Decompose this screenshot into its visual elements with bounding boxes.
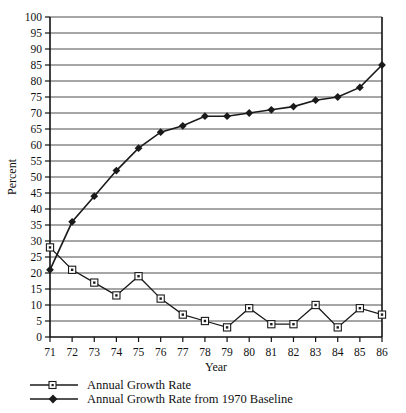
- x-tick-label: 71: [44, 346, 56, 358]
- legend: Annual Growth Rate Annual Growth Rate fr…: [30, 378, 293, 406]
- data-point-marker: [290, 103, 298, 111]
- y-tick-label: 40: [31, 203, 43, 215]
- x-tick-label: 72: [66, 346, 78, 358]
- chart-container: 0510152025303540455055606570758085909510…: [0, 0, 406, 413]
- data-point-center: [226, 326, 228, 328]
- y-tick-label: 0: [36, 331, 42, 343]
- line-chart: 0510152025303540455055606570758085909510…: [0, 0, 406, 413]
- data-point-center: [292, 323, 294, 325]
- data-point-center: [93, 281, 95, 283]
- y-tick-label: 30: [31, 235, 43, 247]
- y-tick-label: 90: [31, 43, 43, 55]
- series-1-line: [50, 65, 382, 270]
- data-point-center: [137, 275, 139, 277]
- data-point-center: [159, 297, 161, 299]
- series-1-markers: [46, 61, 386, 274]
- x-tick-label: 78: [199, 346, 211, 358]
- data-point-marker: [334, 93, 342, 101]
- y-tick-label: 35: [31, 219, 43, 231]
- x-axis-tick-labels: 71727374757677787980818283848586: [44, 346, 388, 358]
- x-tick-label: 80: [243, 346, 255, 358]
- y-tick-label: 5: [36, 315, 42, 327]
- y-tick-label: 45: [31, 187, 43, 199]
- x-tick-label: 77: [177, 346, 189, 358]
- legend-label-1: Annual Growth Rate from 1970 Baseline: [87, 392, 293, 406]
- data-point-center: [204, 320, 206, 322]
- x-tick-label: 79: [221, 346, 233, 358]
- series-0-line: [50, 247, 382, 327]
- y-tick-label: 15: [31, 283, 43, 295]
- x-tick-label: 76: [155, 346, 167, 358]
- y-tick-label: 50: [31, 171, 43, 183]
- filled-diamond-icon: [49, 395, 58, 404]
- data-point-center: [115, 294, 117, 296]
- data-point-marker: [245, 109, 253, 117]
- data-point-center: [49, 246, 51, 248]
- x-axis-title: Year: [205, 360, 227, 374]
- data-point-center: [337, 326, 339, 328]
- data-point-center: [314, 304, 316, 306]
- y-tick-label: 75: [31, 91, 43, 103]
- x-tick-label: 85: [354, 346, 366, 358]
- data-point-center: [248, 307, 250, 309]
- x-tick-label: 73: [89, 346, 101, 358]
- data-point-center: [182, 313, 184, 315]
- legend-label-0: Annual Growth Rate: [87, 378, 192, 392]
- legend-item-1[interactable]: Annual Growth Rate from 1970 Baseline: [30, 392, 293, 406]
- x-tick-label: 74: [111, 346, 123, 358]
- data-point-center: [359, 307, 361, 309]
- y-tick-label: 70: [31, 107, 43, 119]
- y-tick-label: 100: [25, 11, 43, 23]
- y-tick-label: 20: [31, 267, 43, 279]
- y-tick-label: 60: [31, 139, 43, 151]
- data-point-center: [270, 323, 272, 325]
- data-point-center: [71, 269, 73, 271]
- legend-item-0[interactable]: Annual Growth Rate: [30, 378, 192, 392]
- x-tick-label: 75: [133, 346, 145, 358]
- series-annual-growth-rate-baseline: [46, 61, 386, 274]
- x-tick-label: 84: [332, 346, 344, 358]
- y-axis-tick-labels: 0510152025303540455055606570758085909510…: [25, 11, 43, 343]
- y-axis-title: Percent: [5, 158, 19, 195]
- y-tick-label: 25: [31, 251, 43, 263]
- y-tick-label: 10: [31, 299, 43, 311]
- x-tick-label: 81: [266, 346, 278, 358]
- y-tick-label: 55: [31, 155, 43, 167]
- y-tick-label: 65: [31, 123, 43, 135]
- y-tick-label: 80: [31, 75, 43, 87]
- data-point-center: [381, 313, 383, 315]
- gridlines: [50, 17, 382, 321]
- open-square-icon-inner: [52, 384, 54, 386]
- y-tick-label: 85: [31, 59, 43, 71]
- x-tick-label: 83: [310, 346, 322, 358]
- y-tick-label: 95: [31, 27, 43, 39]
- x-tick-label: 86: [376, 346, 388, 358]
- x-tick-label: 82: [288, 346, 300, 358]
